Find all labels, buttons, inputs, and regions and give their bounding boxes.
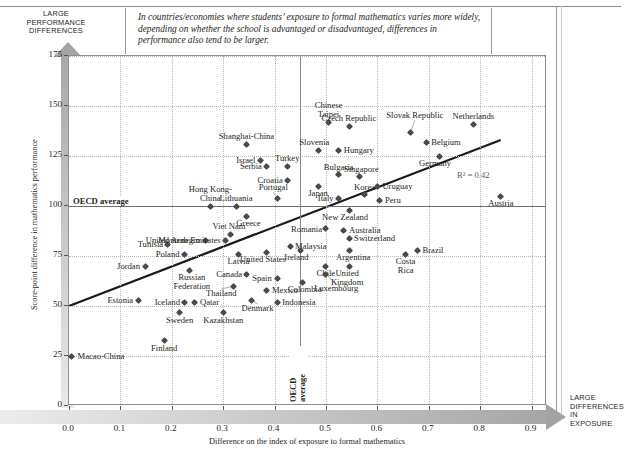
- caption-text: In countries/economies where students’ e…: [138, 12, 481, 47]
- y-tick: [64, 105, 68, 106]
- oecd-average-horizontal-line: [69, 206, 545, 207]
- arrow-shaft: [0, 410, 546, 424]
- point-label: Finland: [151, 344, 177, 353]
- data-point: [322, 271, 329, 278]
- point-label: New Zealand: [322, 213, 368, 222]
- x-tick: [120, 406, 121, 410]
- point-label: Slovak Republic: [386, 111, 443, 120]
- x-tick-label: 0.2: [154, 423, 188, 433]
- y-gridline: [69, 156, 545, 157]
- data-point: [274, 275, 281, 282]
- point-label: Argentina: [336, 253, 370, 262]
- x-gridline: [480, 56, 481, 404]
- data-point: [181, 299, 188, 306]
- caption-box: In countries/economies where students’ e…: [125, 8, 492, 54]
- x-tick-label: 0.7: [411, 423, 445, 433]
- y-tick: [64, 305, 68, 306]
- point-label: Iceland: [155, 298, 180, 307]
- y-tick: [64, 255, 68, 256]
- x-tick: [480, 406, 481, 410]
- x-tick-label: 0.0: [51, 423, 85, 433]
- point-label: Romania: [291, 225, 322, 234]
- point-label: Slovenia: [299, 138, 329, 147]
- callout-large-differences-in-exposure: LARGE DIFFERENCES IN EXPOSURE: [570, 394, 622, 428]
- data-point: [335, 147, 342, 154]
- x-tick-label: 0.6: [359, 423, 393, 433]
- data-point: [284, 163, 291, 170]
- x-tick: [532, 406, 533, 410]
- data-point: [274, 195, 281, 202]
- oecd-average-vertical-label: OECD average: [289, 346, 307, 404]
- point-label: Kazakhstan: [203, 316, 243, 325]
- y-tick-label: 50: [32, 299, 62, 309]
- x-tick-label: 0.1: [102, 423, 136, 433]
- point-label: United Arab Emirates: [146, 236, 221, 245]
- data-point: [207, 203, 214, 210]
- y-gridline: [69, 56, 545, 57]
- data-point: [263, 287, 270, 294]
- x-tick-label: 0.4: [257, 423, 291, 433]
- point-label: Australia: [349, 226, 381, 235]
- arrow-right-icon: [546, 404, 566, 430]
- point-label: Costa Rica: [391, 257, 421, 275]
- data-point: [340, 227, 347, 234]
- y-tick-label: 150: [32, 99, 62, 109]
- x-tick-label: 0.3: [205, 423, 239, 433]
- point-label: Switzerland: [354, 234, 395, 243]
- point-label: Hong Kong-China: [187, 185, 233, 203]
- point-label: Jordan: [117, 262, 140, 271]
- data-point: [376, 197, 383, 204]
- point-label: Czech Republic: [322, 114, 377, 123]
- point-label: Macao-China: [78, 352, 125, 361]
- data-point: [346, 235, 353, 242]
- data-point: [274, 299, 281, 306]
- data-point: [257, 157, 264, 164]
- oecd-average-horizontal-label: OECD average: [71, 196, 131, 206]
- data-point: [243, 141, 250, 148]
- point-label: Ireland: [284, 253, 308, 262]
- point-label: United States: [240, 255, 286, 264]
- point-label: Korea: [354, 183, 375, 192]
- y-tick: [64, 155, 68, 156]
- data-point: [181, 251, 188, 258]
- y-tick-label: 0: [32, 399, 62, 409]
- x-tick: [377, 406, 378, 410]
- point-label: Germany: [419, 159, 451, 168]
- data-point: [135, 297, 142, 304]
- data-point: [263, 163, 270, 170]
- x-tick-label: 0.8: [462, 423, 496, 433]
- point-label: Netherlands: [453, 112, 495, 121]
- x-tick: [69, 406, 70, 410]
- data-point: [222, 237, 229, 244]
- data-point: [407, 129, 414, 136]
- x-tick: [326, 406, 327, 410]
- scatter-plot-area: R² = 0.42 OECD averageOECD averageMacao-…: [68, 55, 546, 405]
- data-point: [335, 195, 342, 202]
- point-label: Indonesia: [282, 298, 315, 307]
- y-tick: [64, 205, 68, 206]
- x-axis-title: Difference on the index of exposure to f…: [68, 437, 546, 446]
- data-point: [243, 271, 250, 278]
- point-label: Uruguay: [382, 182, 412, 191]
- data-point: [287, 243, 294, 250]
- y-tick: [64, 55, 68, 56]
- point-label: Austria: [488, 199, 513, 208]
- point-label: Croatia: [257, 176, 282, 185]
- y-tick-label: 100: [32, 199, 62, 209]
- data-point: [414, 247, 421, 254]
- point-label: Hungary: [344, 146, 374, 155]
- point-label: Turkey: [275, 154, 300, 163]
- point-label: Peru: [385, 196, 401, 205]
- x-gridline: [429, 56, 430, 404]
- point-label: Brazil: [422, 246, 443, 255]
- data-point: [315, 147, 322, 154]
- y-tick-label: 175: [32, 49, 62, 59]
- r-squared-label: R² = 0.42: [457, 170, 490, 180]
- point-label: Israel: [236, 156, 255, 165]
- point-label: Belgium: [431, 138, 461, 147]
- y-tick: [64, 405, 68, 406]
- x-gridline: [275, 56, 276, 404]
- y-tick-label: 125: [32, 149, 62, 159]
- y-gridline: [69, 356, 545, 357]
- point-label: Luxembourg: [314, 284, 358, 293]
